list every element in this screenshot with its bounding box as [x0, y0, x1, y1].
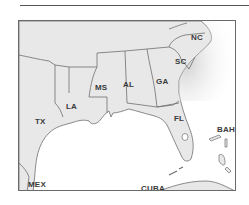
us-landmass — [19, 21, 212, 191]
label-north-carolina: NC — [191, 34, 203, 42]
label-alabama: AL — [123, 81, 134, 89]
bahamas-islands — [209, 135, 231, 173]
top-divider-line — [20, 5, 249, 6]
cuba-landmass — [157, 181, 236, 191]
label-mexico: MEX — [28, 181, 46, 189]
label-mississippi: MS — [95, 84, 107, 92]
label-cuba: CUBA — [141, 185, 165, 191]
label-texas: TX — [35, 118, 46, 126]
florida-keys — [169, 167, 183, 175]
label-bahamas: BAH — [217, 126, 235, 134]
label-florida: FL — [174, 115, 184, 123]
lake-okeechobee — [182, 134, 188, 141]
label-south-carolina: SC — [175, 58, 187, 66]
map-frame: NC SC GA AL MS LA TX FL BAH MEX CUBA — [18, 20, 236, 191]
map-canvas — [19, 21, 236, 191]
label-georgia: GA — [156, 78, 168, 86]
label-louisiana: LA — [66, 103, 77, 111]
